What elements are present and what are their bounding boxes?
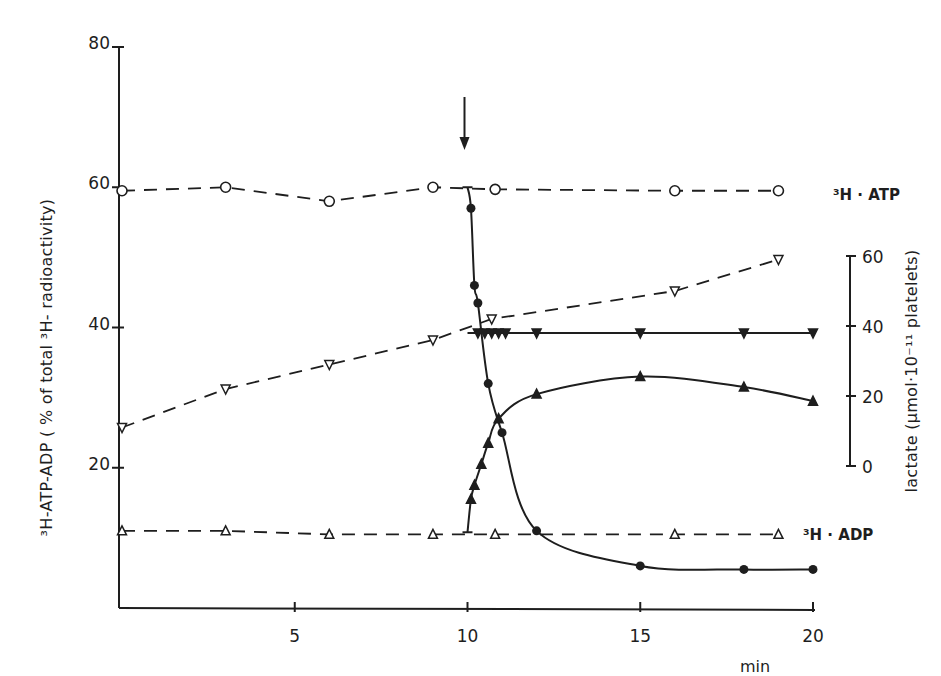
data-point-atp-control <box>324 196 334 206</box>
y-axis-right-title: lactate (µmol·10⁻¹¹ platelets) <box>902 249 921 492</box>
x-tick-label: 20 <box>802 626 824 646</box>
data-point-atp-control <box>670 186 680 196</box>
y-left-tick-label: 60 <box>88 173 110 193</box>
data-point-atp-control <box>773 186 783 196</box>
data-point-atp-after <box>809 565 818 574</box>
series-line-adp-after <box>468 376 814 532</box>
x-axis-unit-label: min <box>740 657 770 676</box>
axes: 204060805101520min³H-ATP-ADP ( % of tota… <box>37 33 921 676</box>
data-point-atp-after <box>532 526 541 535</box>
data-point-atp-control <box>221 182 231 192</box>
y-right-tick-label: 20 <box>862 387 884 407</box>
data-point-lactate-control <box>670 287 679 296</box>
series-label-adp: ³H · ADP <box>803 526 873 544</box>
chart-canvas: 204060805101520min³H-ATP-ADP ( % of tota… <box>0 0 941 676</box>
x-tick-label: 10 <box>457 626 479 646</box>
data-point-atp-after <box>470 281 479 290</box>
y-left-tick-label: 80 <box>88 33 110 53</box>
y-right-tick-label: 0 <box>862 457 873 477</box>
y-right-tick-label: 40 <box>862 317 884 337</box>
y-right-tick-label: 60 <box>862 247 884 267</box>
data-point-lactate-control <box>774 256 783 265</box>
y-left-tick-label: 20 <box>88 454 110 474</box>
data-point-atp-after <box>739 565 748 574</box>
data-point-atp-after <box>473 298 482 307</box>
x-tick-label: 5 <box>289 626 300 646</box>
data-point-atp-control <box>428 182 438 192</box>
data-point-adp-after <box>477 459 486 468</box>
data-point-adp-after <box>470 480 479 489</box>
data-point-atp-after <box>636 561 645 570</box>
series-label-atp: ³H · ATP <box>833 186 900 204</box>
addition-arrow-icon <box>460 137 470 150</box>
data-point-adp-after <box>484 438 493 447</box>
y-axis-left-title: ³H-ATP-ADP ( % of total ³H- radioactivit… <box>37 199 56 537</box>
series-line-adp-control <box>122 531 778 535</box>
y-left-tick-label: 40 <box>88 314 110 334</box>
annotations-layer: ³H · ATP³H · ADP <box>460 97 900 544</box>
data-point-atp-control <box>117 186 127 196</box>
data-point-atp-control <box>490 184 500 194</box>
x-tick-label: 15 <box>629 626 651 646</box>
markers-layer <box>117 182 818 574</box>
data-point-lactate-control <box>221 385 230 394</box>
series-line-lactate-control <box>122 260 778 428</box>
data-point-lactate-control <box>325 361 334 370</box>
data-point-adp-after <box>466 494 475 503</box>
data-point-atp-after <box>466 204 475 213</box>
data-point-atp-after <box>484 379 493 388</box>
data-point-atp-after <box>498 428 507 437</box>
data-point-adp-control <box>774 529 783 538</box>
series-layer <box>122 187 813 570</box>
